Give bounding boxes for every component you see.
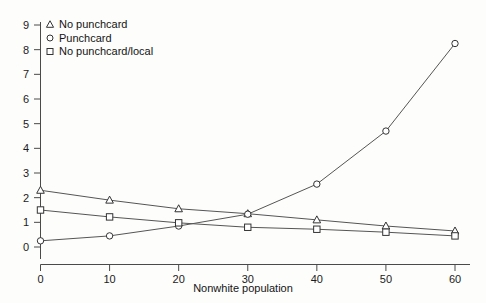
square-marker [47, 49, 53, 55]
data-point-marker [37, 238, 43, 244]
y-tick-label: 1 [23, 216, 29, 228]
chart-legend: No punchcardPunchcardNo punchcard/local [46, 18, 153, 57]
y-tick-label: 8 [23, 44, 29, 56]
legend-item-1: No punchcard [46, 18, 127, 30]
data-point-marker [106, 233, 112, 239]
x-tick-label: 10 [103, 273, 115, 285]
data-point-marker [314, 181, 320, 187]
data-point-marker [106, 214, 112, 220]
data-point-marker [37, 186, 45, 193]
y-axis: 0123456789 [23, 19, 41, 259]
data-point-marker [452, 40, 458, 46]
series-2 [37, 40, 458, 244]
data-point-marker [452, 233, 458, 239]
data-point-marker [175, 220, 181, 226]
data-point-marker [383, 128, 389, 134]
circle-marker [47, 35, 53, 41]
series-layer [37, 40, 459, 244]
legend-label: No punchcard [59, 18, 128, 30]
legend-label: No punchcard/local [59, 45, 153, 57]
legend-item-2: Punchcard [47, 32, 112, 44]
y-tick-label: 2 [23, 192, 29, 204]
x-axis-title: Nonwhite population [193, 282, 293, 294]
legend-item-3: No punchcard/local [47, 45, 153, 57]
y-tick-group: 0123456789 [23, 19, 41, 253]
y-tick-label: 0 [23, 241, 29, 253]
y-tick-label: 6 [23, 93, 29, 105]
y-tick-label: 5 [23, 118, 29, 130]
line-chart: 0123456789 0102030405060 Nonwhite popula… [0, 0, 486, 303]
data-point-marker [314, 226, 320, 232]
y-tick-label: 3 [23, 167, 29, 179]
legend-label: Punchcard [59, 32, 112, 44]
y-tick-label: 9 [23, 19, 29, 31]
x-tick-label: 40 [311, 273, 323, 285]
x-tick-label: 20 [173, 273, 185, 285]
triangle-marker [46, 21, 53, 28]
y-tick-label: 4 [23, 142, 29, 154]
data-point-marker [245, 211, 251, 217]
chart-figure: 0123456789 0102030405060 Nonwhite popula… [0, 0, 486, 303]
y-tick-label: 7 [23, 68, 29, 80]
x-tick-label: 60 [449, 273, 461, 285]
x-tick-label: 50 [380, 273, 392, 285]
data-point-marker [383, 229, 389, 235]
x-tick-label: 0 [37, 273, 43, 285]
data-point-marker [245, 224, 251, 230]
data-point-marker [37, 207, 43, 213]
